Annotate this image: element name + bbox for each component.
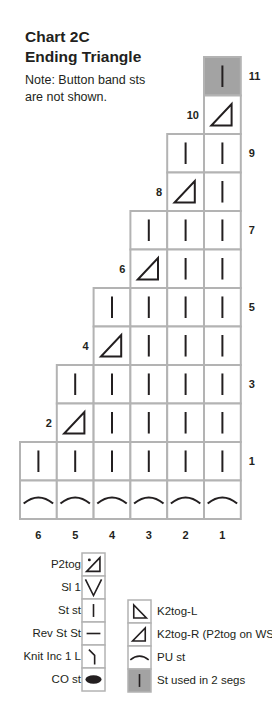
chart-cell [167,134,204,173]
cell-box [20,481,57,520]
chart-cell [204,327,241,366]
legend-item-k2tog-r [128,623,151,646]
row-label: 10 [187,109,199,121]
chart-cell [94,404,131,443]
chart-cell [130,404,167,443]
p2tog-dot [88,558,91,561]
cell-box [167,481,204,520]
chart-cell [167,211,204,250]
chart-row: 2 [46,404,241,443]
chart-cell [167,173,204,212]
legend-swatch [128,646,151,669]
chart-cell [167,327,204,366]
legend-label: K2tog-R (P2tog on WS) [157,623,272,646]
chart-cell [130,250,167,289]
chart-row [20,481,241,520]
chart-cell [167,481,204,520]
chart-cell [167,288,204,327]
chart-cell [57,481,94,520]
chart-row: 3 [57,365,255,404]
chart-cell [204,211,241,250]
legend-label: St st [58,599,81,622]
chart-cell [204,288,241,327]
cast-on-oval [85,675,101,683]
chart-cell [167,365,204,404]
legend-item-st-used-2-segs [128,669,151,692]
row-label: 1 [249,455,255,467]
legend-item-p2tog [82,553,105,576]
chart-cell [20,442,57,481]
cell-box [130,481,167,520]
chart-cell [204,442,241,481]
chart-cell [94,327,131,366]
row-label: 3 [249,378,255,390]
legend-label: Knit Inc 1 L [23,645,81,668]
column-label: 3 [146,529,152,541]
chart-cell [130,211,167,250]
chart-cell [57,365,94,404]
legend-label: Rev St St [32,622,81,645]
chart-row: 11 [204,57,260,96]
chart-cell [94,365,131,404]
row-label: 5 [249,301,255,313]
column-label: 4 [109,529,116,541]
chart-cell [94,288,131,327]
chart-cell [130,327,167,366]
chart-cell [94,481,131,520]
row-label: 7 [249,224,255,236]
chart-cell [204,96,241,135]
legend-item-co-st [82,668,105,691]
legend-label: Sl 1 [61,576,81,599]
row-label: 11 [249,70,261,82]
legend-item-st-st [82,599,105,622]
chart-cell [130,288,167,327]
legend-item-rev-st-st [82,622,105,645]
chart-row: 7 [130,211,255,250]
cell-box [57,481,94,520]
legend-item-pu-st [128,646,151,669]
chart-cell [204,57,241,96]
chart-row: 8 [156,173,241,212]
chart-cell [204,365,241,404]
legend-item-sl-1 [82,576,105,599]
chart-row: 10 [187,96,241,135]
column-label: 2 [183,529,189,541]
row-label: 9 [249,147,255,159]
knitting-chart: 1110987654321654321 [0,0,272,720]
legend-swatch [82,645,105,668]
legend-item-k2tog-l [128,600,151,623]
chart-cell [204,404,241,443]
cell-box [94,481,131,520]
column-label: 6 [35,529,41,541]
row-label: 2 [46,417,52,429]
chart-row: 9 [167,134,255,173]
row-label: 8 [156,186,162,198]
chart-cell [130,365,167,404]
chart-cell [57,442,94,481]
chart-row: 1 [20,442,255,481]
legend-item-knit-inc-1-l [82,645,105,668]
chart-cell [204,481,241,520]
chart-cell [130,442,167,481]
chart-cell [204,134,241,173]
chart-cell [20,481,57,520]
chart-cell [167,404,204,443]
chart-row: 4 [82,327,240,366]
row-label: 6 [119,263,125,275]
legend-label: K2tog-L [157,600,197,623]
chart-cell [204,250,241,289]
chart-cell [167,250,204,289]
chart-row: 6 [119,250,241,289]
column-label: 1 [219,529,225,541]
legend-label: St used in 2 segs [157,669,245,692]
column-label: 5 [72,529,78,541]
chart-cell [57,404,94,443]
chart-cell [204,173,241,212]
row-label: 4 [82,340,89,352]
legend-label: P2tog [51,553,81,576]
chart-cell [167,442,204,481]
legend-label: CO st [52,668,81,691]
cell-box [204,481,241,520]
chart-cell [94,442,131,481]
chart-cell [130,481,167,520]
